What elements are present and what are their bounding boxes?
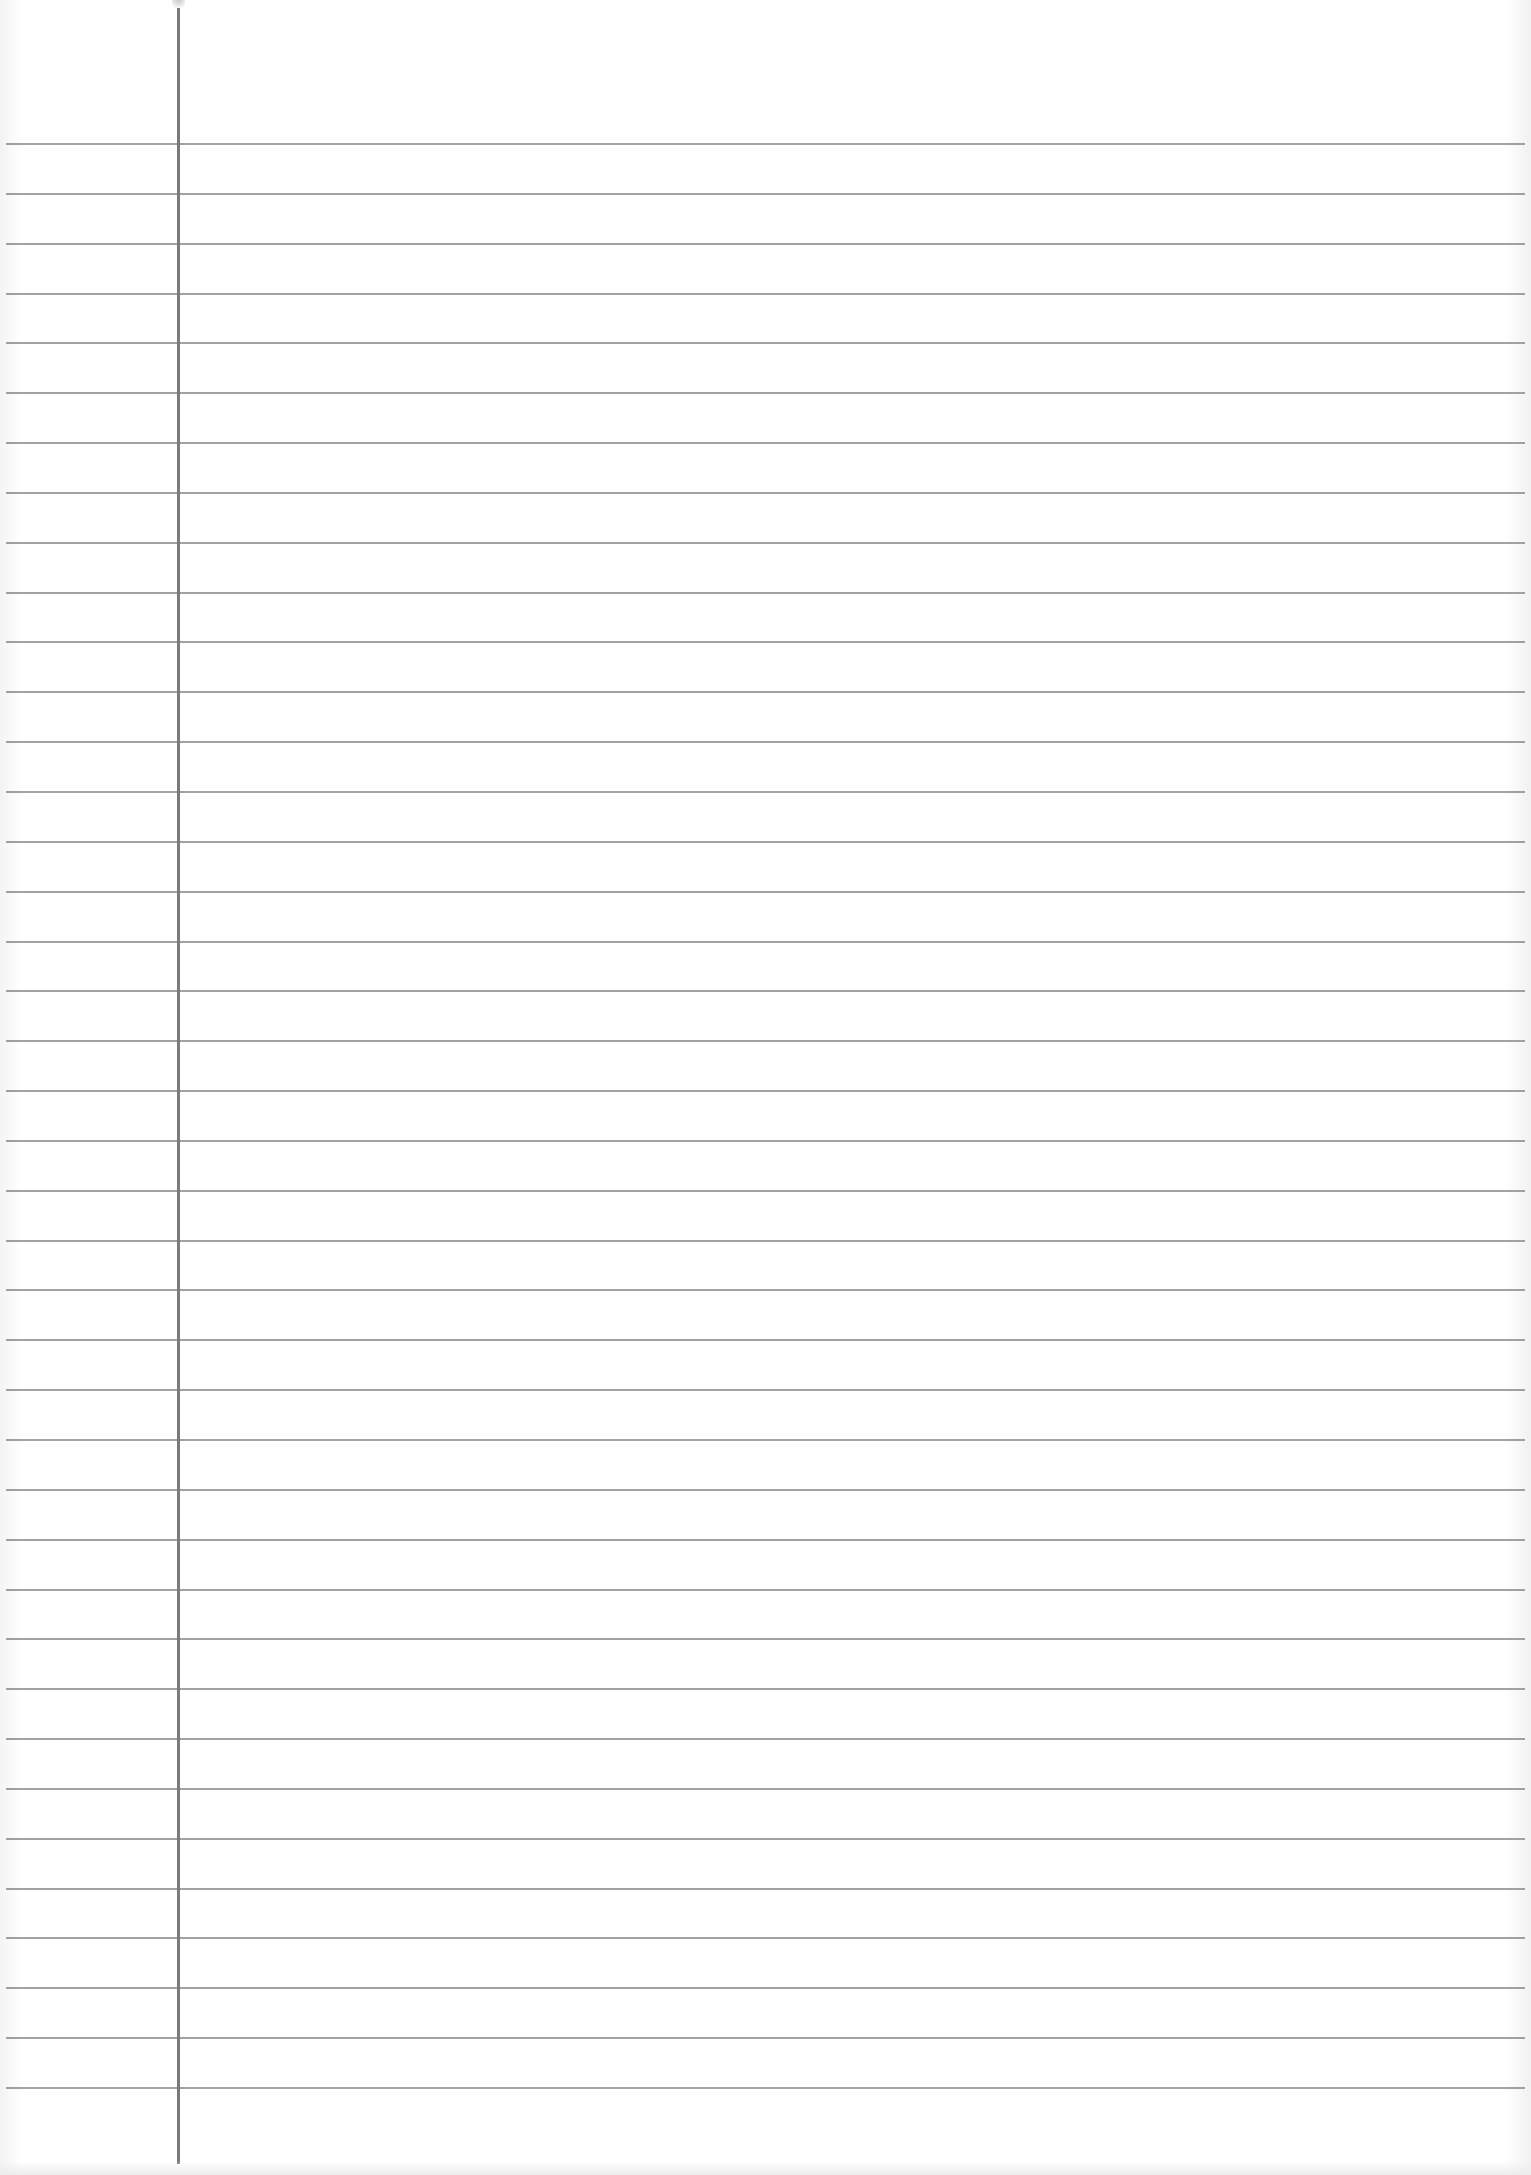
ruled-line — [6, 1190, 1525, 1192]
ruled-line — [6, 243, 1525, 245]
ruled-line — [6, 1439, 1525, 1441]
ruled-line — [6, 492, 1525, 494]
ruled-line — [6, 1888, 1525, 1890]
margin-line — [177, 8, 180, 2164]
ruled-line — [6, 2087, 1525, 2089]
ruled-line — [6, 592, 1525, 594]
ruled-line — [6, 1389, 1525, 1391]
ruled-line — [6, 1987, 1525, 1989]
ruled-line — [6, 1688, 1525, 1690]
ruled-line — [6, 193, 1525, 195]
ruled-line — [6, 641, 1525, 643]
ruled-line — [6, 1539, 1525, 1541]
ruled-line — [6, 1489, 1525, 1491]
ruled-line — [6, 1788, 1525, 1790]
ruled-line — [6, 990, 1525, 992]
ruled-line — [6, 392, 1525, 394]
ruled-line — [6, 1589, 1525, 1591]
ruled-line — [6, 791, 1525, 793]
ruled-line — [6, 1638, 1525, 1640]
ruled-line — [6, 293, 1525, 295]
ruled-line — [6, 143, 1525, 145]
ruled-line — [6, 1937, 1525, 1939]
ruled-line — [6, 1090, 1525, 1092]
ruled-line — [6, 1738, 1525, 1740]
bottom-edge-shadow — [0, 2161, 1531, 2175]
ruled-line — [6, 1289, 1525, 1291]
ruled-line — [6, 741, 1525, 743]
ruled-paper-sheet — [0, 0, 1531, 2175]
ruled-line — [6, 891, 1525, 893]
ruled-line — [6, 442, 1525, 444]
ruled-line — [6, 941, 1525, 943]
ruled-line — [6, 1838, 1525, 1840]
ruled-line — [6, 691, 1525, 693]
ruled-line — [6, 1339, 1525, 1341]
ruled-line — [6, 2037, 1525, 2039]
ruled-line — [6, 1040, 1525, 1042]
ruled-line — [6, 342, 1525, 344]
ruled-line — [6, 841, 1525, 843]
ruled-line — [6, 1240, 1525, 1242]
ruled-line — [6, 542, 1525, 544]
ruled-line — [6, 1140, 1525, 1142]
